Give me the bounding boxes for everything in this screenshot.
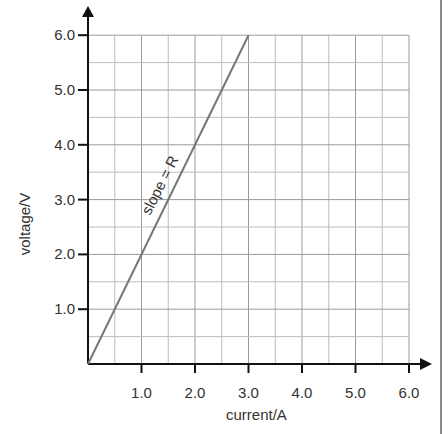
y-axis-title: voltage/V [16,193,33,256]
tick-labels: 1.02.03.04.05.06.01.02.03.04.05.06.0 [54,26,419,401]
axes [82,6,432,370]
y-tick-label: 3.0 [54,191,75,208]
x-tick-label: 3.0 [238,384,259,401]
y-tick-label: 2.0 [54,245,75,262]
y-tick-label: 1.0 [54,300,75,317]
x-tick-label: 4.0 [292,384,313,401]
ticks [78,35,409,373]
x-tick-label: 1.0 [131,384,152,401]
x-tick-label: 6.0 [399,384,420,401]
y-tick-label: 4.0 [54,136,75,153]
x-axis-arrow-icon [420,358,432,370]
x-tick-label: 5.0 [345,384,366,401]
grid [88,35,409,364]
y-tick-label: 5.0 [54,81,75,98]
y-axis-arrow-icon [82,6,94,17]
y-tick-label: 6.0 [54,26,75,43]
x-tick-label: 2.0 [185,384,206,401]
x-axis-title: current/A [226,406,287,423]
chart-canvas: 1.02.03.04.05.06.01.02.03.04.05.06.0 slo… [0,0,448,434]
